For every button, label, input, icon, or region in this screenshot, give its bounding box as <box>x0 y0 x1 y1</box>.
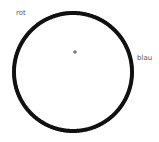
label-blau: blau <box>137 55 152 62</box>
label-rot: rot <box>16 10 26 17</box>
diagram-canvas <box>0 0 159 142</box>
